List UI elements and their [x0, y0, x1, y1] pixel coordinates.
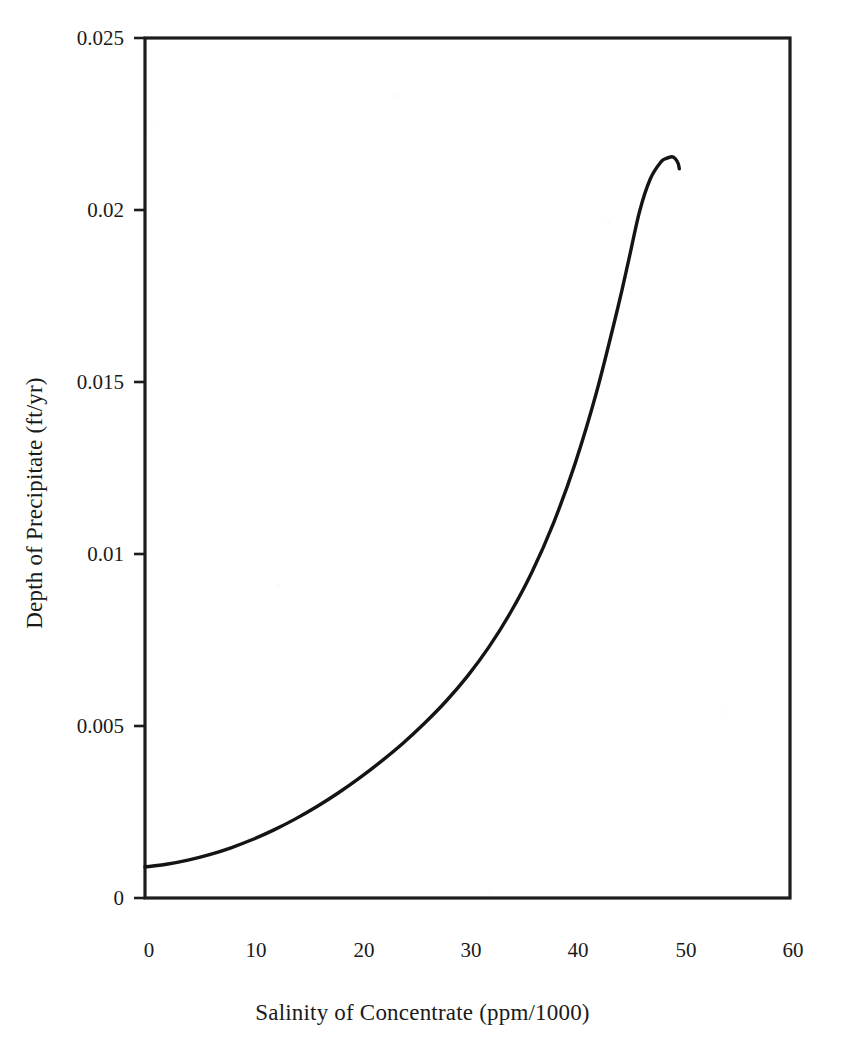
- data-curve-depth-of-precipitate: [145, 157, 679, 867]
- chart-plot-area: [0, 0, 845, 1063]
- ytick-label-0.025: 0.025: [30, 28, 124, 49]
- xtick-label-0: 0: [144, 940, 155, 961]
- figure-root: 0 0.005 0.01 0.015 0.02 0.025 0 10 20 30…: [0, 0, 845, 1063]
- x-axis-title: Salinity of Concentrate (ppm/1000): [0, 1000, 845, 1026]
- xtick-label-20: 20: [354, 940, 375, 961]
- xtick-label-40: 40: [568, 940, 589, 961]
- y-tick-marks: [134, 38, 145, 898]
- xtick-label-30: 30: [461, 940, 482, 961]
- plot-frame: [145, 38, 790, 898]
- xtick-label-10: 10: [246, 940, 267, 961]
- y-axis-title: Depth of Precipitate (ft/yr): [22, 73, 48, 933]
- xtick-label-50: 50: [676, 940, 697, 961]
- xtick-label-60: 60: [783, 940, 804, 961]
